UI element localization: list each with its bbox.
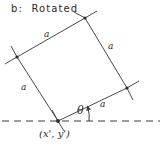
- angle-arc-arrow: [88, 108, 89, 121]
- vertex-dots: [15, 16, 128, 123]
- vertex-tick-marks: [5, 11, 139, 131]
- figure-canvas: [0, 0, 162, 149]
- side-label-top: a: [44, 29, 49, 39]
- vertex-dot-origin: [56, 119, 60, 123]
- rotated-square-figure: b: Rotated: [0, 0, 162, 149]
- side-label-right: a: [108, 41, 113, 51]
- tick-left-b: [11, 46, 17, 57]
- vertex-dot-top: [83, 16, 86, 19]
- side-label-left: a: [21, 82, 26, 92]
- tick-top-b: [74, 12, 85, 18]
- vertex-dot-left: [15, 55, 18, 58]
- side-label-bottom: a: [100, 99, 105, 109]
- vertex-dot-right: [125, 86, 128, 89]
- tick-left-a: [5, 57, 17, 64]
- tick-right-a: [127, 81, 139, 88]
- tick-right-b: [127, 88, 133, 100]
- rotated-square: [17, 18, 127, 121]
- angle-theta-label: θ: [77, 104, 84, 117]
- origin-point-label: (x', y'): [39, 128, 70, 139]
- tick-top-a: [85, 11, 97, 18]
